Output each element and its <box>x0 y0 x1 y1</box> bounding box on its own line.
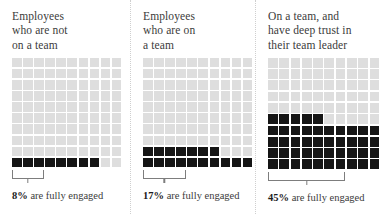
waffle-cell-empty <box>45 80 55 90</box>
waffle-cell-empty <box>34 124 44 134</box>
waffle-cell-empty <box>324 103 334 113</box>
waffle-cell-empty <box>221 113 231 123</box>
waffle-cell-empty <box>336 103 346 113</box>
waffle-cell-filled <box>291 159 301 169</box>
waffle-cell-empty <box>56 91 66 101</box>
waffle-cell-empty <box>34 58 44 68</box>
waffle-cell-empty <box>154 69 164 79</box>
waffle-cell-empty <box>12 69 22 79</box>
waffle-cell-filled <box>176 147 186 157</box>
waffle-cell-empty <box>221 91 231 101</box>
waffle-cell-empty <box>112 102 122 112</box>
waffle-cell-empty <box>45 58 55 68</box>
waffle-cell-filled <box>90 158 100 168</box>
waffle-cell-filled <box>279 126 289 136</box>
bracket <box>143 170 186 179</box>
waffle-cell-empty <box>101 58 111 68</box>
waffle-cell-filled <box>336 137 346 147</box>
waffle-cell-empty <box>101 69 111 79</box>
waffle-cell-filled <box>370 148 380 158</box>
waffle-cell-filled <box>370 137 380 147</box>
waffle-cell-empty <box>79 102 89 112</box>
waffle-cell-empty <box>90 147 100 157</box>
waffle-cell-empty <box>112 124 122 134</box>
waffle-cell-empty <box>198 69 208 79</box>
panel-on-team-with-trust: On a team, and have deep trust in their … <box>255 0 388 214</box>
waffle-cell-filled <box>324 126 334 136</box>
waffle-cell-empty <box>279 69 289 79</box>
waffle-cell-filled <box>143 158 153 168</box>
waffle-cell-empty <box>221 124 231 134</box>
waffle-cell-filled <box>358 159 368 169</box>
waffle-cell-empty <box>221 58 231 68</box>
waffle-cell-empty <box>56 124 66 134</box>
panel-title: Employees who are on a team <box>143 9 255 52</box>
waffle-cell-filled <box>336 148 346 158</box>
waffle-cell-empty <box>336 92 346 102</box>
bracket <box>12 170 44 179</box>
waffle-cell-empty <box>243 147 253 157</box>
waffle-cell-filled <box>198 147 208 157</box>
waffle-cell-filled <box>279 114 289 124</box>
waffle-cell-filled <box>268 126 278 136</box>
waffle-cell-empty <box>112 158 122 168</box>
waffle-cell-empty <box>232 147 242 157</box>
waffle-cell-empty <box>67 147 77 157</box>
waffle-cell-filled <box>347 137 357 147</box>
waffle-cell-empty <box>67 136 77 146</box>
waffle-cell-empty <box>187 136 197 146</box>
waffle-cell-filled <box>324 159 334 169</box>
waffle-cell-empty <box>154 136 164 146</box>
waffle-cell-empty <box>243 69 253 79</box>
waffle-cell-empty <box>67 58 77 68</box>
waffle-cell-empty <box>34 80 44 90</box>
waffle-cell-empty <box>12 136 22 146</box>
waffle-cell-empty <box>313 103 323 113</box>
waffle-cell-empty <box>291 80 301 90</box>
waffle-cell-empty <box>143 58 153 68</box>
waffle-cell-empty <box>45 102 55 112</box>
waffle-cell-empty <box>198 113 208 123</box>
waffle-cell-empty <box>34 69 44 79</box>
waffle-cell-empty <box>210 91 220 101</box>
waffle-cell-empty <box>112 91 122 101</box>
waffle-cell-empty <box>56 69 66 79</box>
waffle-cell-empty <box>176 80 186 90</box>
waffle-cell-filled <box>198 158 208 168</box>
waffle-cell-empty <box>187 80 197 90</box>
waffle-cell-filled <box>302 137 312 147</box>
waffle-cell-filled <box>324 148 334 158</box>
waffle-cell-empty <box>23 80 33 90</box>
waffle-cell-empty <box>154 80 164 90</box>
waffle-cell-empty <box>56 80 66 90</box>
panel-title: On a team, and have deep trust in their … <box>268 9 388 52</box>
waffle-cell-empty <box>176 113 186 123</box>
waffle-cell-empty <box>90 124 100 134</box>
waffle-cell-empty <box>302 69 312 79</box>
waffle-cell-empty <box>358 92 368 102</box>
waffle-cell-empty <box>347 103 357 113</box>
waffle-cell-empty <box>198 58 208 68</box>
waffle-cell-empty <box>358 69 368 79</box>
waffle-cell-empty <box>198 91 208 101</box>
waffle-cell-empty <box>324 80 334 90</box>
waffle-cell-empty <box>165 136 175 146</box>
waffle-cell-empty <box>143 102 153 112</box>
waffle-cell-empty <box>90 80 100 90</box>
waffle-cell-empty <box>198 80 208 90</box>
waffle-grid <box>268 58 388 169</box>
waffle-cell-empty <box>12 91 22 101</box>
percent-value: 45 <box>268 192 279 203</box>
waffle-cell-empty <box>12 124 22 134</box>
waffle-cell-empty <box>23 69 33 79</box>
waffle-cell-empty <box>232 102 242 112</box>
waffle-cell-empty <box>370 92 380 102</box>
percent-symbol: % <box>154 190 165 201</box>
panel-title: Employees who are not on a team <box>12 9 130 52</box>
waffle-cell-empty <box>101 102 111 112</box>
waffle-cell-empty <box>198 102 208 112</box>
waffle-cell-empty <box>291 103 301 113</box>
waffle-cell-empty <box>143 124 153 134</box>
waffle-cell-empty <box>90 58 100 68</box>
caption-text: are fully engaged <box>289 192 365 203</box>
